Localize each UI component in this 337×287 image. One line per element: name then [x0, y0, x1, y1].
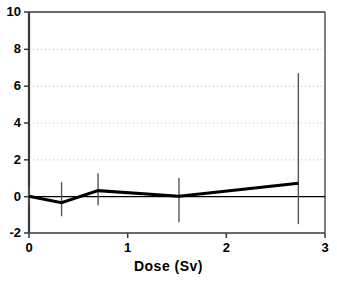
xtick-label-2: 2 — [212, 241, 240, 254]
xtick-label-3: 3 — [311, 241, 337, 254]
chart-container: 10 8 6 4 2 0 -2 0 1 2 3 Dose (Sv) — [0, 0, 337, 287]
ytick-label-8: 8 — [0, 42, 21, 55]
ytick-label-0: 0 — [0, 190, 21, 203]
x-axis-ticks — [29, 233, 325, 238]
xtick-label-0: 0 — [15, 241, 43, 254]
gridlines — [29, 49, 325, 160]
ytick-label-6: 6 — [0, 79, 21, 92]
ytick-label-10: 10 — [0, 5, 21, 18]
ytick-label-minus2: -2 — [0, 226, 21, 239]
data-series-line — [29, 183, 298, 202]
xtick-label-1: 1 — [114, 241, 142, 254]
ytick-label-4: 4 — [0, 116, 21, 129]
ytick-label-2: 2 — [0, 153, 21, 166]
plot-area — [0, 0, 337, 287]
x-axis-title: Dose (Sv) — [0, 258, 337, 274]
